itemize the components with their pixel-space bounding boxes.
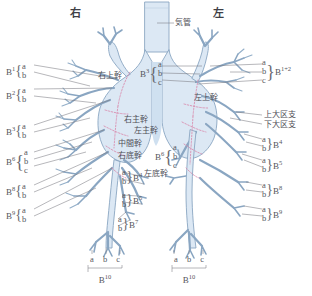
subsegments-b3-left: a b c: [158, 60, 162, 87]
segment-name-b6-left: B6: [155, 151, 164, 162]
segment-label-b9-left: a b } B9: [262, 205, 282, 223]
brace-icon: {: [15, 184, 22, 198]
segment-label-b10-right: a b c B10: [80, 254, 130, 285]
brace-icon: }: [266, 158, 273, 172]
trachea-shape: [145, 2, 169, 52]
segment-label-b1-2: a b c } B1+2: [262, 58, 291, 85]
brace-icon: {: [15, 208, 22, 222]
segment-label-b1: B1 { a b: [6, 62, 26, 80]
subsegments-b10-left: a b c: [164, 254, 214, 264]
segment-label-b10-left: a b c B10: [164, 254, 214, 285]
segment-label-b7-right: a b } B7: [118, 215, 138, 233]
segment-label-b4-left: a b } B4: [262, 135, 282, 153]
brace-icon: {: [15, 124, 22, 138]
brace-icon: {: [15, 153, 24, 171]
segment-label-b4-right: a b } B4: [122, 168, 142, 186]
right-upper-trunk-label: 右上幹: [98, 72, 122, 80]
segment-label-b6: B6 { a b c: [6, 148, 28, 175]
subsegment-b: b: [22, 215, 26, 224]
right-side-title: 右: [70, 8, 81, 19]
segment-label-b5-right: a b } B5: [122, 191, 142, 209]
left-basal-trunk-label: 左底幹: [144, 170, 168, 178]
segment-label-b5-left: a b } B5: [262, 156, 282, 174]
segment-name-b9-left: B9: [273, 209, 282, 220]
segment-name-b10-right: B10: [80, 273, 130, 285]
segment-name-b2: B2: [6, 90, 15, 101]
segment-label-b6-left: B6 { a b c: [155, 143, 177, 170]
brace-icon: }: [126, 170, 133, 184]
bronchial-tree-diagram: .aw{fill:#dce8f4;stroke:#8aa6c2;stroke-w…: [0, 0, 312, 296]
left-upper-trunk-label: 左上幹: [194, 94, 218, 102]
segment-name-b9: B9: [6, 210, 15, 221]
segment-name-b6: B6: [6, 156, 15, 167]
left-main-bronchus-label: 左主幹: [134, 127, 158, 135]
segment-label-b9: B9 { a b: [6, 206, 26, 224]
right-main-bronchus-label: 右主幹: [124, 116, 148, 124]
segment-name-b3: B3: [6, 126, 15, 137]
segment-label-b3-left: B3 { a b c: [140, 60, 162, 87]
right-basal-trunk-label: 右底幹: [118, 152, 142, 160]
brace-icon: {: [15, 64, 22, 78]
subsegment-b: b: [22, 95, 26, 104]
subsegments-b10-right: a b c: [80, 254, 130, 264]
subsegments-b9: a b: [22, 206, 26, 224]
subsegment-c: c: [116, 254, 120, 264]
trachea-label: 気管: [175, 19, 191, 27]
brace-icon: }: [266, 137, 273, 151]
segment-label-b8-left: a b } B8: [262, 181, 282, 199]
lower-division-label: 下大区支: [264, 121, 296, 129]
subsegment-b: b: [103, 254, 107, 264]
subsegment-b: b: [22, 191, 26, 200]
subsegments-b1: a b: [22, 62, 26, 80]
segment-name-b8-left: B8: [273, 185, 282, 196]
subsegment-b: b: [22, 131, 26, 140]
subsegment-c: c: [158, 78, 162, 87]
segment-name-b5-left: B5: [273, 160, 282, 171]
subsegments-b2: a b: [22, 86, 26, 104]
intermediate-bronchus-label: 中間幹: [118, 140, 142, 148]
subsegments-b3: a b: [22, 122, 26, 140]
brace-icon: }: [266, 183, 273, 197]
segment-name-b8: B8: [6, 186, 15, 197]
subsegment-c: c: [173, 161, 177, 170]
brace-icon: }: [122, 217, 129, 231]
subsegments-b6-left: a b c: [173, 143, 177, 170]
subsegment-a: a: [90, 254, 94, 264]
subsegment-a: a: [174, 254, 178, 264]
segment-name-b3-left: B3: [140, 68, 149, 79]
subsegments-b6: a b c: [24, 148, 28, 175]
subsegment-b: b: [22, 71, 26, 80]
brace-icon: {: [149, 65, 158, 83]
upper-division-label: 上大区支: [264, 111, 296, 119]
subsegment-c: c: [200, 254, 204, 264]
segment-name-b10-left: B10: [164, 273, 214, 285]
left-side-title: 左: [213, 8, 224, 19]
segment-name-b4-left: B4: [273, 139, 282, 150]
brace-icon: {: [164, 148, 173, 166]
subsegments-b8: a b: [22, 182, 26, 200]
brace-icon: }: [266, 207, 273, 221]
brace-icon: {: [15, 88, 22, 102]
segment-label-b8: B8 { a b: [6, 182, 26, 200]
segment-label-b3: B3 { a b: [6, 122, 26, 140]
brace-icon: }: [266, 63, 275, 81]
subsegment-c: c: [24, 166, 28, 175]
subsegment-b: b: [187, 254, 191, 264]
segment-name-b1: B1: [6, 66, 15, 77]
segment-name-b5-right: B5: [133, 195, 142, 206]
segment-name-b7-right: B7: [129, 219, 138, 230]
segment-name-b1-2: B1+2: [275, 66, 291, 77]
brace-icon: }: [126, 193, 133, 207]
segment-name-b4-right: B4: [133, 172, 142, 183]
segment-label-b2: B2 { a b: [6, 86, 26, 104]
